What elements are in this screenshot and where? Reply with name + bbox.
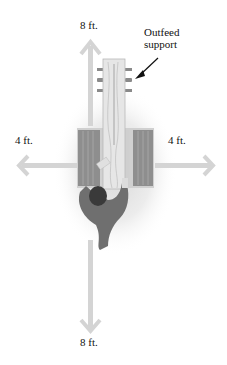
left-distance-label: 4 ft. <box>15 134 33 146</box>
lumber-board <box>103 59 129 189</box>
right-distance-label: 4 ft. <box>168 134 186 146</box>
bottom-distance-label: 8 ft. <box>80 336 98 348</box>
callout-label-line1: Outfeed <box>144 26 179 38</box>
callout-arrow-icon <box>135 58 158 79</box>
callout-label-line2: support <box>144 38 177 50</box>
arrow-down-icon <box>81 240 100 331</box>
top-distance-label: 8 ft. <box>80 19 98 31</box>
saw-clearance-diagram: 8 ft. 8 ft. 4 ft. 4 ft. Outfeed support <box>0 0 227 365</box>
diagram-graphic <box>0 0 227 365</box>
